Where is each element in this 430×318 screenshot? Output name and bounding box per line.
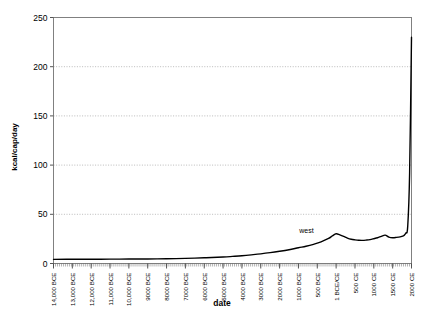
y-tick-label: 250	[33, 13, 47, 23]
x-tick-label: 4000 BCE	[239, 273, 246, 301]
x-tick-label: 1 BCE/CE	[333, 273, 340, 301]
chart-figure: 050100150200250 14,000 BCE13,000 BCE12,0…	[0, 0, 430, 318]
energy-capture-line-chart: 050100150200250 14,000 BCE13,000 BCE12,0…	[0, 0, 430, 318]
y-tick-label: 100	[33, 160, 47, 170]
x-minor-tick-marks	[54, 264, 412, 267]
series-annotation-west: west	[298, 227, 313, 234]
x-tick-label: 9000 BCE	[144, 273, 151, 301]
x-tick-label: 1500 CE	[389, 273, 396, 297]
y-tick-label: 200	[33, 62, 47, 72]
x-tick-label: 500 CE	[352, 273, 359, 294]
y-axis-title: kcal/cap/day	[10, 123, 19, 171]
x-tick-label: 2000 BCE	[276, 273, 283, 301]
x-tick-label: 5000 BCE	[220, 273, 227, 301]
x-tick-label: 2000 CE	[408, 273, 415, 297]
y-tick-label: 150	[33, 111, 47, 121]
x-tick-label: 13,000 BCE	[69, 273, 76, 306]
x-tick-label: 10,000 BCE	[125, 273, 132, 306]
x-tick-label: 7000 BCE	[182, 273, 189, 301]
plot-area-border	[54, 18, 412, 264]
y-tick-label: 50	[38, 209, 48, 219]
y-tick-label: 0	[43, 259, 48, 269]
x-tick-label: 1000 BCE	[295, 273, 302, 301]
x-tick-label: 500 BCE	[314, 273, 321, 298]
x-tick-label: 1000 CE	[370, 273, 377, 297]
x-tick-label: 6000 BCE	[201, 273, 208, 301]
x-tick-label: 11,000 BCE	[107, 273, 114, 306]
x-tick-label: 14,000 BCE	[50, 273, 57, 306]
x-tick-label: 3000 BCE	[257, 273, 264, 301]
x-tick-label: 8000 BCE	[163, 273, 170, 301]
x-axis-title: date	[213, 298, 231, 308]
x-tick-label: 12,000 BCE	[88, 273, 95, 306]
